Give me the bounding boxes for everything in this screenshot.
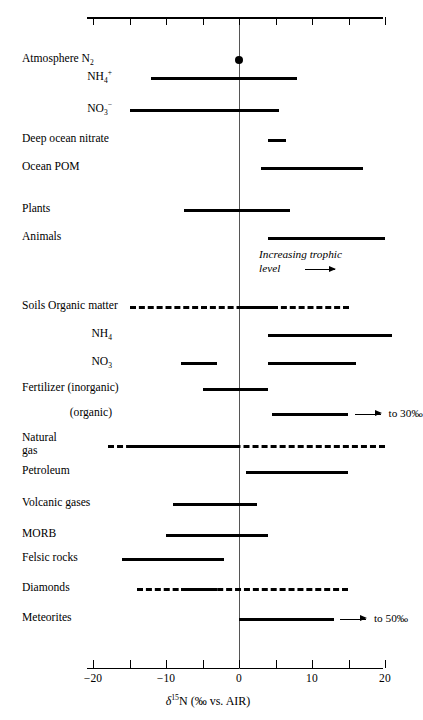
row-label-petroleum: Petroleum xyxy=(22,465,70,478)
range-bar xyxy=(239,618,334,621)
row-label-diamonds: Diamonds xyxy=(22,582,70,595)
note-arrow xyxy=(340,619,366,620)
axis-tick-top xyxy=(239,17,240,25)
range-note: to 50‰ xyxy=(374,612,408,624)
range-bar xyxy=(181,588,218,591)
range-bar xyxy=(268,334,392,337)
range-bar xyxy=(184,209,290,212)
axis-bottom-line xyxy=(87,668,383,669)
axis-tick-top xyxy=(166,17,167,25)
row-label-fertilizer-inorganic: Fertilizer (inorganic) xyxy=(22,382,119,395)
axis-tick-bottom xyxy=(130,660,131,668)
axis-tick-top xyxy=(385,17,386,25)
row-label-meteorites: Meteorites xyxy=(22,612,72,625)
range-bar xyxy=(239,306,276,309)
row-label-deep-ocean-nitrate: Deep ocean nitrate xyxy=(22,133,109,146)
range-bar xyxy=(268,237,385,240)
axis-tick-bottom xyxy=(239,660,240,668)
range-bar xyxy=(122,558,224,561)
axis-tick-top xyxy=(203,17,204,25)
range-bar xyxy=(272,413,349,416)
range-bar xyxy=(137,588,349,591)
axis-top-line xyxy=(87,17,383,19)
range-bar xyxy=(246,471,348,474)
atmosphere-n2-marker xyxy=(235,56,243,64)
row-label-plants: Plants xyxy=(22,203,50,216)
row-label-atmosphere-n2: Atmosphere N2 xyxy=(22,53,94,66)
row-label-nh4: NH4 xyxy=(91,328,112,341)
axis-tick-bottom xyxy=(203,660,204,668)
axis-tick-top xyxy=(93,17,94,25)
row-label-no3: NO3− xyxy=(87,103,112,116)
range-bar xyxy=(203,388,269,391)
axis-tick-bottom xyxy=(93,660,94,668)
axis-tick-label: −20 xyxy=(84,672,103,684)
axis-tick-bottom xyxy=(166,660,167,668)
range-bar xyxy=(130,445,240,448)
row-label-nh4: NH4+ xyxy=(87,71,112,84)
row-label-volcanic-gases: Volcanic gases xyxy=(22,497,90,510)
range-bar xyxy=(181,362,218,365)
row-label-felsic-rocks: Felsic rocks xyxy=(22,552,78,565)
axis-tick-bottom xyxy=(312,660,313,668)
axis-tick-top xyxy=(130,17,131,25)
axis-tick-top xyxy=(349,17,350,25)
row-label-ocean-pom: Ocean POM xyxy=(22,161,80,174)
range-note: to 30‰ xyxy=(389,407,423,419)
axis-tick-top xyxy=(312,17,313,25)
row-label-animals: Animals xyxy=(22,231,61,244)
note-arrow xyxy=(355,414,381,415)
axis-tick-bottom xyxy=(349,660,350,668)
trophic-arrow xyxy=(305,269,335,270)
axis-tick-bottom xyxy=(385,660,386,668)
range-bar xyxy=(166,534,268,537)
axis-tick-bottom xyxy=(276,660,277,668)
zero-reference-line xyxy=(239,17,240,669)
row-label-no3: NO3 xyxy=(91,356,112,369)
axis-title: δ15N (‰ vs. AIR) xyxy=(0,694,416,709)
row-label-organic: (organic) xyxy=(70,407,112,420)
range-bar xyxy=(268,139,286,142)
row-label-natural-gas: Naturalgas xyxy=(22,432,57,457)
row-label-morb: MORB xyxy=(22,528,56,541)
axis-tick-label: 20 xyxy=(379,672,391,684)
axis-tick-label: 0 xyxy=(236,672,242,684)
range-bar xyxy=(151,77,297,80)
range-bar xyxy=(268,362,356,365)
axis-tick-label: −10 xyxy=(157,672,176,684)
range-bar xyxy=(130,109,280,112)
row-label-soils-organic-matter: Soils Organic matter xyxy=(22,300,118,313)
range-bar xyxy=(261,167,363,170)
range-bar xyxy=(173,503,257,506)
axis-tick-label: 10 xyxy=(306,672,318,684)
axis-tick-top xyxy=(276,17,277,25)
